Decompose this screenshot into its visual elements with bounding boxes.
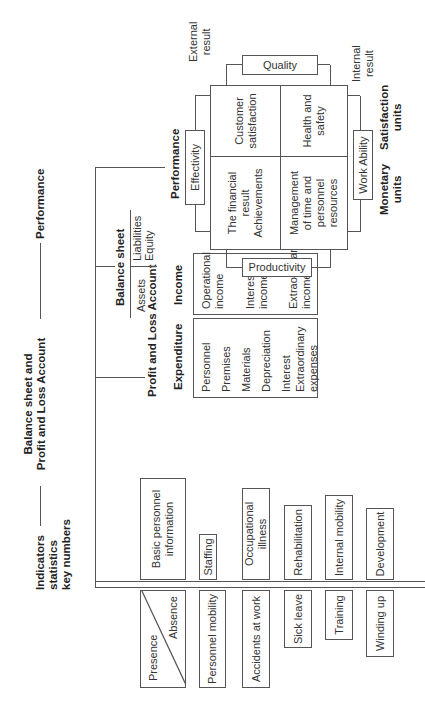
liabilities-equity-label: Liabilities Equity <box>131 216 155 261</box>
development-box: Development <box>366 508 394 580</box>
health-line1: Health and <box>301 94 314 147</box>
bracket-quality-top-v <box>226 64 242 65</box>
satisfaction-line2: units <box>391 85 404 150</box>
internal-mobility-box: Internal mobility <box>325 495 353 580</box>
management-line1: Management <box>288 171 301 235</box>
divider-line-a <box>95 587 425 588</box>
branch-performance <box>95 167 165 168</box>
external-line1: External <box>187 22 200 62</box>
external-result-label: External result <box>187 22 213 62</box>
sick-leave-box: Sick leave <box>284 590 312 648</box>
bracket-productivity-bottom-v <box>312 267 330 268</box>
header-connector-2 <box>40 243 41 319</box>
financial-line3: Achievements <box>252 168 265 237</box>
liabilities-label: Liabilities <box>131 216 143 261</box>
header-balance-pl: Balance sheet and Profit and Loss Accoun… <box>22 324 48 484</box>
header-balance-line1: Balance sheet and <box>22 324 35 484</box>
health-line2: safety <box>314 106 327 135</box>
absence-label: Absence <box>167 596 180 639</box>
performance-grid: The financial result Achievements Custom… <box>210 85 348 250</box>
divider-line-b <box>95 581 425 582</box>
expenditure-item-premises: Premises <box>220 346 233 392</box>
bracket-quality-bottom-v <box>318 64 330 65</box>
bracket-effectivity-right-v <box>195 95 210 96</box>
expenditure-item-extraordinary: Extraordinary expenses <box>294 322 320 392</box>
monetary-units-label: Monetary units <box>378 164 404 215</box>
header-indicators-line1: Indicators <box>34 519 47 590</box>
quadrant-customer-satisfaction: Customer satisfaction <box>211 86 280 156</box>
customer-line1: Customer <box>233 97 246 145</box>
bracket-productivity-bottom <box>330 250 331 268</box>
basic-personnel-info-box: Basic personnel information <box>140 478 186 580</box>
assets-label: Assets <box>135 279 148 312</box>
accidents-at-work-box: Accidents at work <box>242 590 270 688</box>
quadrant-financial-result: The financial result Achievements <box>211 157 280 249</box>
management-line2: of time and <box>301 176 314 230</box>
satisfaction-line1: Satisfaction <box>378 85 391 150</box>
effectivity-box: Effectivity <box>185 130 205 205</box>
internal-line1: Internal <box>350 45 363 82</box>
basic-info-line1: Basic personnel <box>150 490 163 568</box>
quadrant-management: Management of time and personnel resourc… <box>281 157 347 249</box>
internal-line2: result <box>363 45 376 82</box>
occupational-illness-box: Occupational illness <box>242 488 270 580</box>
header-performance: Performance <box>34 169 47 239</box>
bracket-effectivity-left-v <box>195 231 210 232</box>
basic-info-line2: information <box>163 502 176 556</box>
branch-profit-loss <box>95 377 145 378</box>
satisfaction-units-label: Satisfaction units <box>378 85 404 150</box>
income-item-operational: Operational income <box>200 254 226 309</box>
training-box: Training <box>325 590 353 640</box>
income-label: Income <box>172 265 185 305</box>
work-ability-box: Work Ability <box>353 130 373 200</box>
internal-result-label: Internal result <box>350 45 376 82</box>
expenditure-label: Expenditure <box>172 324 185 390</box>
header-indicators: Indicators statistics key numbers <box>34 519 73 590</box>
external-line2: result <box>200 22 213 62</box>
management-line3: personnel <box>314 179 327 227</box>
equity-label: Equity <box>143 216 155 261</box>
header-indicators-line2: statistics <box>47 519 60 590</box>
expenditure-box: Personnel Premises Materials Depreciatio… <box>193 318 318 398</box>
bracket-workability-right <box>360 96 361 130</box>
financial-line1: The financial <box>226 172 239 234</box>
diagram-frame: Indicators statistics key numbers Balanc… <box>0 0 425 702</box>
monetary-line1: Monetary <box>378 164 391 215</box>
monetary-line2: units <box>391 164 404 215</box>
staffing-box: Staffing <box>199 534 217 580</box>
expenditure-item-materials: Materials <box>240 347 253 392</box>
personnel-mobility-box: Personnel mobility <box>199 590 226 688</box>
header-connector-1 <box>40 486 41 526</box>
financial-line2: result <box>239 190 252 217</box>
bracket-productivity-top-v <box>226 267 242 268</box>
presence-absence-box: Presence Absence <box>140 590 186 688</box>
winding-up-box: Winding up <box>366 590 394 657</box>
quality-box: Quality <box>242 55 318 75</box>
expenditure-item-depreciation: Depreciation <box>260 330 273 392</box>
expenditure-item-personnel: Personnel <box>200 342 213 392</box>
bracket-workability-left-v <box>348 231 360 232</box>
bracket-effectivity-left <box>195 205 196 232</box>
bracket-effectivity-right <box>195 96 196 130</box>
bracket-quality-top <box>226 65 227 85</box>
performance-model-title: Performance <box>169 129 182 199</box>
bracket-workability-left <box>360 200 361 232</box>
header-balance-line2: Profit and Loss Account <box>35 324 48 484</box>
header-indicators-line3: key numbers <box>60 519 73 590</box>
productivity-box: Productivity <box>242 258 312 277</box>
branch-balance-sheet <box>95 266 115 267</box>
balance-sheet-title: Balance sheet <box>114 229 127 306</box>
rehabilitation-box: Rehabilitation <box>284 505 312 580</box>
balance-sheet-divider <box>130 266 157 267</box>
presence-label: Presence <box>147 635 160 681</box>
quality-label: Quality <box>263 59 297 72</box>
main-trunk-line <box>95 168 96 588</box>
customer-line2: satisfaction <box>246 93 259 148</box>
quadrant-health-safety: Health and safety <box>281 86 347 156</box>
productivity-label: Productivity <box>249 261 306 274</box>
expenditure-item-interest: Interest <box>280 355 293 392</box>
bracket-productivity-top <box>226 250 227 268</box>
bracket-workability-right-v <box>348 95 360 96</box>
management-line4: resources <box>327 179 340 227</box>
bracket-quality-bottom <box>330 65 331 85</box>
